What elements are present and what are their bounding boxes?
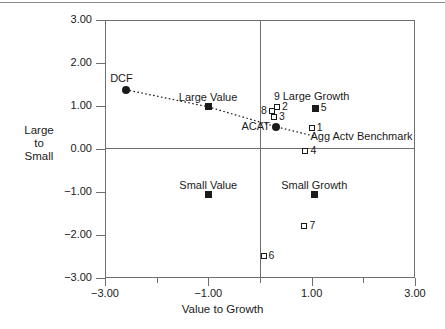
- data-point-p4[interactable]: [302, 148, 308, 154]
- data-point-p3[interactable]: [271, 114, 277, 120]
- x-axis-title: Value to Growth: [0, 303, 445, 315]
- data-point-p1[interactable]: [309, 125, 315, 131]
- data-point-label-large-value: Large Value: [179, 92, 238, 103]
- data-point-label-p4: 4: [310, 145, 316, 156]
- x-tick: [208, 278, 209, 286]
- data-point-small-value[interactable]: [205, 191, 212, 198]
- data-point-label-small-value: Small Value: [179, 180, 237, 191]
- x-tick-label: 1.00: [282, 288, 342, 299]
- y-tick: [96, 192, 105, 193]
- data-point-label-large-growth: Large Growth: [283, 91, 350, 102]
- x-tick-minor: [157, 278, 158, 283]
- x-tick-minor: [260, 278, 261, 283]
- data-point-p2[interactable]: [274, 104, 280, 110]
- data-point-p5[interactable]: [312, 105, 319, 112]
- x-tick-label: 3.00: [385, 288, 445, 299]
- x-tick: [312, 278, 313, 286]
- data-point-p6[interactable]: [261, 253, 267, 259]
- data-point-label-p3: 3: [279, 111, 285, 122]
- y-tick: [96, 278, 105, 279]
- data-point-label-p5: 5: [321, 102, 327, 113]
- y-tick-label: 1.00: [48, 100, 92, 111]
- zero-line-vertical: [260, 20, 261, 278]
- data-point-label-p9: 9: [274, 91, 280, 102]
- y-tick: [96, 106, 105, 107]
- x-tick-label: −1.00: [178, 288, 238, 299]
- data-point-acat[interactable]: [272, 123, 280, 131]
- scatter-chart: Large to Small Value to Growth −3.00−2.0…: [0, 0, 445, 329]
- y-tick-label: −2.00: [48, 229, 92, 240]
- x-tick: [415, 278, 416, 286]
- y-tick: [96, 63, 105, 64]
- y-tick: [96, 20, 105, 21]
- y-tick-label: 0.00: [48, 143, 92, 154]
- x-tick-minor: [363, 278, 364, 283]
- data-point-p7[interactable]: [301, 223, 307, 229]
- y-tick-label: −3.00: [48, 272, 92, 283]
- y-tick: [96, 149, 105, 150]
- x-tick: [105, 278, 106, 286]
- data-point-label-p1: 1: [317, 122, 323, 133]
- data-point-label-p6: 6: [269, 250, 275, 261]
- y-tick-label: 3.00: [48, 14, 92, 25]
- data-point-large-value[interactable]: [205, 103, 212, 110]
- data-point-label-small-growth: Small Growth: [281, 180, 347, 191]
- data-point-label-p8: 8: [261, 105, 267, 116]
- data-point-label-dcf: DCF: [110, 73, 133, 84]
- y-tick: [96, 235, 105, 236]
- data-point-small-growth[interactable]: [311, 191, 318, 198]
- y-tick-label: −1.00: [48, 186, 92, 197]
- data-point-label-acat: ACAT: [242, 121, 271, 132]
- data-point-p8[interactable]: [269, 108, 275, 114]
- data-point-label-benchmark: Agg Actv Benchmark: [310, 131, 412, 142]
- y-axis-title-line-1: Large: [8, 124, 70, 137]
- top-divider: [0, 2, 445, 3]
- y-tick-label: 2.00: [48, 57, 92, 68]
- x-tick-label: −3.00: [75, 288, 135, 299]
- data-point-label-p7: 7: [309, 220, 315, 231]
- data-point-dcf[interactable]: [122, 86, 130, 94]
